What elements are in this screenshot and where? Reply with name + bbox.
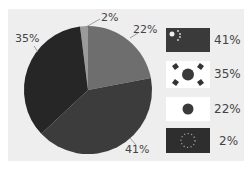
eu-flag-icon: [166, 128, 210, 153]
legend-value-japan: 22%: [214, 102, 241, 116]
legend-value-south-korea: 35%: [214, 67, 241, 81]
legend-value-china: 41%: [214, 33, 241, 47]
china-flag-icon: [166, 28, 210, 52]
label-china: 41%: [125, 143, 149, 156]
label-south-korea: 35%: [15, 32, 39, 45]
japan-flag-icon: [166, 97, 210, 121]
label-eu: 2%: [101, 11, 118, 24]
label-japan: 22%: [133, 23, 157, 36]
south-korea-flag-icon: [166, 61, 210, 88]
legend-value-eu: 2%: [219, 134, 238, 148]
